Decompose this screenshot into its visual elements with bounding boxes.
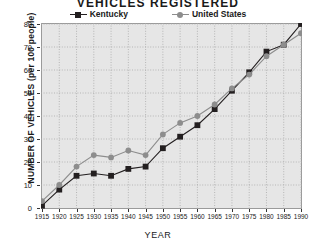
x-tick-label: 1985: [276, 213, 290, 220]
x-tick-mark: [301, 209, 302, 212]
x-tick-label: 1920: [52, 213, 66, 220]
x-tick-mark: [266, 209, 267, 212]
x-tick-label: 1925: [69, 213, 83, 220]
x-tick-label: 1930: [87, 213, 101, 220]
x-tick-mark: [249, 209, 250, 212]
x-tick-label: 1965: [207, 213, 221, 220]
x-tick-label: 1980: [259, 213, 273, 220]
x-tick-label: 1990: [294, 213, 308, 220]
chart-container: VEHICLES REGISTERED Kentucky United Stat…: [0, 0, 316, 248]
x-tick-label: 1940: [121, 213, 135, 220]
x-tick-label: 1915: [35, 213, 49, 220]
x-tick-mark: [42, 209, 43, 212]
plot-area: [41, 23, 302, 209]
x-tick-label: 1970: [225, 213, 239, 220]
x-tick-mark: [197, 209, 198, 212]
x-tick-mark: [77, 209, 78, 212]
x-tick-label: 1955: [173, 213, 187, 220]
plot-series-svg: [41, 23, 302, 209]
x-tick-mark: [146, 209, 147, 212]
x-tick-mark: [180, 209, 181, 212]
x-tick-mark: [284, 209, 285, 212]
x-tick-mark: [111, 209, 112, 212]
x-tick-mark: [232, 209, 233, 212]
x-tick-label: 1960: [190, 213, 204, 220]
x-tick-label: 1945: [138, 213, 152, 220]
x-tick-mark: [94, 209, 95, 212]
x-tick-mark: [59, 209, 60, 212]
x-tick-label: 1950: [156, 213, 170, 220]
x-tick-mark: [215, 209, 216, 212]
x-tick-mark: [128, 209, 129, 212]
x-tick-label: 1975: [242, 213, 256, 220]
x-tick-mark: [163, 209, 164, 212]
x-tick-label: 1935: [104, 213, 118, 220]
